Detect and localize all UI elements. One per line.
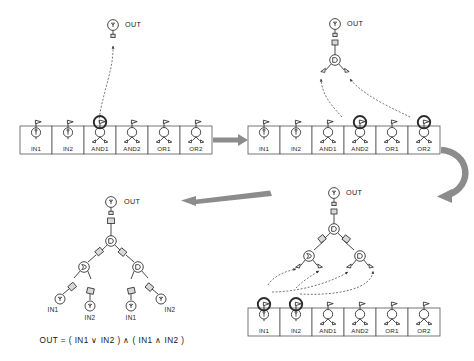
- panel-1: OUT IN1 IN2 AND1 A: [20, 20, 212, 154]
- panel2-out-terminal[interactable]: [330, 19, 341, 37]
- panel3-palette[interactable]: IN1 IN2 AND1 AND2 OR1 OR2: [248, 298, 440, 336]
- panel4-leaf-port-3[interactable]: [127, 287, 135, 294]
- panel1-drag-link: [99, 46, 113, 122]
- palette-label-and1: AND1: [91, 145, 109, 152]
- panel1-out-terminal[interactable]: [108, 20, 119, 38]
- figure-canvas: OUT IN1 IN2 AND1 A: [0, 0, 474, 361]
- panel3-out-terminal[interactable]: [329, 188, 340, 206]
- palette-label-in2: IN2: [291, 327, 302, 334]
- palette-label-in1: IN1: [259, 145, 270, 152]
- panel4-root-gate[interactable]: [100, 236, 122, 252]
- panel4-leaf-label-4: IN2: [165, 306, 176, 313]
- panel4-out-terminal[interactable]: [106, 197, 117, 215]
- flow-arrow-u-turn: [437, 150, 465, 203]
- palette-label-in2: IN2: [291, 145, 302, 152]
- panel3-root-left-port[interactable]: [318, 235, 326, 243]
- panel3-root-right-port[interactable]: [342, 235, 350, 243]
- panel1-out-label: OUT: [125, 20, 142, 29]
- panel3-right-gate[interactable]: [347, 251, 374, 268]
- output-formula: OUT = ( IN1 ∨ IN2 ) ∧ ( IN1 ∧ IN2 ): [40, 336, 185, 345]
- panel4-wire-to-right: [126, 255, 134, 262]
- panel4-leaf-port-1[interactable]: [68, 282, 77, 291]
- flow-arrow-right: [213, 134, 248, 146]
- panel2-palette[interactable]: IN1 IN2 AND1 AND2 OR1 OR2: [248, 116, 440, 154]
- panel-2: OUT IN1: [248, 19, 440, 154]
- panel4-leaf-in2-b[interactable]: [156, 294, 166, 304]
- palette-label-and2: AND2: [351, 327, 369, 334]
- panel3-root-gate[interactable]: [324, 224, 344, 239]
- panel2-out-label: OUT: [347, 19, 364, 28]
- panel4-leaf-in1-a[interactable]: [55, 294, 65, 304]
- panel4-leaf-label-3: IN1: [126, 314, 137, 321]
- panel1-palette[interactable]: IN1 IN2 AND1 AND2 OR1 OR2: [20, 116, 212, 154]
- panel4-wire-to-left: [88, 255, 96, 262]
- panel4-leaf-in1-b[interactable]: [126, 301, 136, 311]
- panel4-out-label: OUT: [124, 197, 141, 206]
- panel4-leaf-label-2: IN2: [85, 314, 96, 321]
- panel3-drag-link-c: [272, 272, 348, 292]
- palette-label-or2: OR2: [189, 145, 203, 152]
- panel4-left-gate[interactable]: [74, 262, 91, 279]
- panel3-out-label: OUT: [346, 188, 363, 197]
- panel2-drag-link-or2: [350, 79, 410, 117]
- panel4-leaf-wire-4: [152, 289, 158, 294]
- panel3-left-gate[interactable]: [296, 251, 323, 268]
- palette-label-and2: AND2: [123, 145, 141, 152]
- panel2-root-port[interactable]: [332, 40, 338, 45]
- panel3-drag-link-a: [268, 269, 296, 285]
- panel2-drag-link-and2: [321, 79, 342, 117]
- panel4-leaf-in2-a[interactable]: [85, 301, 95, 311]
- palette-label-or1: OR1: [157, 145, 171, 152]
- palette-label-in1: IN1: [31, 145, 42, 152]
- panel-4: OUT: [40, 197, 185, 345]
- panel4-root-port[interactable]: [108, 218, 115, 224]
- panel3-root-port[interactable]: [331, 209, 337, 214]
- palette-label-or2: OR2: [417, 145, 431, 152]
- panel3-drag-link-d: [300, 271, 373, 294]
- logic-circuit-figure: OUT IN1 IN2 AND1 A: [0, 0, 474, 361]
- panel4-leaf-port-4[interactable]: [145, 283, 154, 292]
- palette-label-and2: AND2: [351, 145, 369, 152]
- panel2-root-gate[interactable]: [321, 55, 349, 73]
- panel4-right-gate[interactable]: [131, 262, 148, 279]
- palette-label-or1: OR1: [385, 145, 399, 152]
- palette-label-or2: OR2: [417, 327, 431, 334]
- panel4-leaf-wire-1: [63, 289, 69, 294]
- palette-label-or1: OR1: [385, 327, 399, 334]
- panel4-root-left-port[interactable]: [95, 247, 104, 256]
- panel4-leaf-port-2[interactable]: [87, 287, 95, 294]
- palette-label-and1: AND1: [319, 145, 337, 152]
- palette-label-in2: IN2: [63, 145, 74, 152]
- panel4-leaf-label-1: IN1: [48, 306, 59, 313]
- palette-label-in1: IN1: [259, 327, 270, 334]
- palette-label-and1: AND1: [319, 327, 337, 334]
- panel-3: OUT: [248, 188, 440, 336]
- flow-arrow-left: [181, 191, 272, 207]
